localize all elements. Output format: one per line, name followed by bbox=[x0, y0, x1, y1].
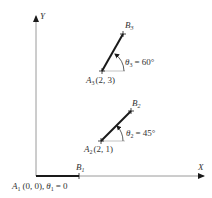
theta3-label: θ3= 60° bbox=[125, 57, 155, 68]
b1-label: B1 bbox=[76, 162, 85, 173]
b3-label: B3 bbox=[125, 20, 134, 31]
segment-1: B1 A1(0, 0),θ1= 0 bbox=[11, 162, 85, 192]
x-axis-label: X bbox=[197, 162, 204, 172]
segment-3: B3 θ3= 60° A3(2, 3) bbox=[85, 20, 155, 86]
segment-2: B2 θ2= 45° A2(2, 1) bbox=[83, 98, 156, 155]
diagram-canvas: Y X B1 A1(0, 0),θ1= 0 B2 θ2= 45° A2(2, 1… bbox=[0, 0, 212, 198]
theta2-label: θ2= 45° bbox=[126, 128, 156, 139]
b2-label: B2 bbox=[132, 98, 141, 109]
a1-label: A1(0, 0),θ1= 0 bbox=[11, 181, 68, 192]
a2-label: A2(2, 1) bbox=[83, 144, 113, 155]
y-axis-label: Y bbox=[40, 11, 46, 21]
a3-label: A3(2, 3) bbox=[85, 75, 115, 86]
